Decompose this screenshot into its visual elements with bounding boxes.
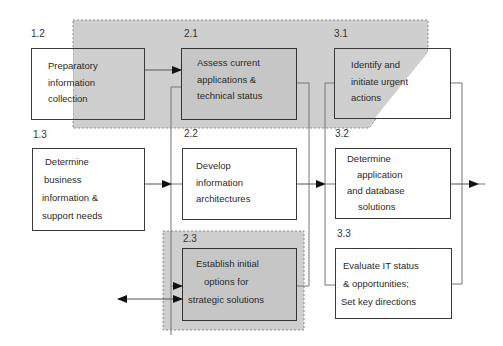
node-line: & opportunities; xyxy=(343,275,419,293)
node-label-2-2: 2.2 xyxy=(184,128,198,139)
node-line: solutions xyxy=(358,199,405,215)
node-line: Establish initial xyxy=(196,255,264,273)
node-line: information xyxy=(48,75,98,92)
node-line: Identify and xyxy=(351,57,408,74)
node-text-3-2: Determine application and database solut… xyxy=(347,151,405,215)
node-line: support needs xyxy=(42,207,102,225)
node-label-3-2: 3.2 xyxy=(335,128,349,139)
node-label-1-2: 1.2 xyxy=(31,28,45,39)
node-text-2-3: Establish initial options for strategic … xyxy=(188,255,264,309)
node-line: applications & xyxy=(197,72,262,89)
node-line: and database xyxy=(347,183,405,199)
node-line: Develop xyxy=(196,158,250,175)
node-line: architectures xyxy=(196,191,250,208)
node-line: strategic solutions xyxy=(188,291,264,309)
node-line: Determine xyxy=(347,151,405,167)
node-line: information xyxy=(196,175,250,192)
node-label-3-1: 3.1 xyxy=(334,28,348,39)
node-label-2-1: 2.1 xyxy=(184,28,198,39)
node-line: initiate urgent xyxy=(351,74,408,91)
node-line: Preparatory xyxy=(48,58,98,75)
node-text-3-3: Evaluate IT status & opportunities; Set … xyxy=(341,257,419,311)
node-line: collection xyxy=(48,91,98,108)
node-label-2-3: 2.3 xyxy=(183,233,197,244)
node-line: business xyxy=(44,171,102,189)
node-text-1-3: Determine business information & support… xyxy=(42,153,102,225)
node-line: Evaluate IT status xyxy=(343,257,419,275)
node-text-1-2: Preparatory information collection xyxy=(48,58,98,108)
column-2-left-bracket xyxy=(171,87,181,335)
node-text-2-2: Develop information architectures xyxy=(196,158,250,208)
node-line: Assess current xyxy=(197,55,262,72)
node-label-3-3: 3.3 xyxy=(337,228,351,239)
node-line: Determine xyxy=(45,153,102,171)
node-line: Set key directions xyxy=(341,293,419,311)
node-line: options for xyxy=(204,273,264,291)
node-line: actions xyxy=(351,90,408,107)
node-line: information & xyxy=(42,189,102,207)
node-line: application xyxy=(357,167,405,183)
node-text-3-1: Identify and initiate urgent actions xyxy=(351,57,408,107)
node-text-2-1: Assess current applications & technical … xyxy=(197,55,262,105)
node-line: technical status xyxy=(197,88,262,105)
node-label-1-3: 1.3 xyxy=(33,129,47,140)
